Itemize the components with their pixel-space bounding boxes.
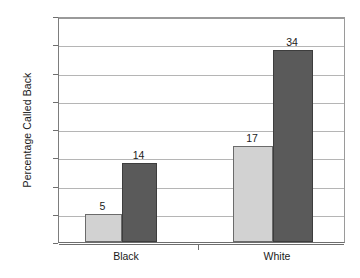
y-tick-mark-0 bbox=[53, 243, 58, 244]
gridline-40 bbox=[59, 18, 344, 19]
black-dark-bar-value-label: 14 bbox=[121, 150, 156, 161]
black-light-bar-value-label: 5 bbox=[84, 201, 121, 212]
bar-chart: Percentage Called Back 4035302520151050 … bbox=[0, 0, 360, 278]
white-light-bar bbox=[233, 146, 273, 242]
gridline-0 bbox=[59, 244, 344, 245]
white-dark-bar-value-label: 34 bbox=[272, 37, 312, 48]
category-label-white: White bbox=[227, 250, 327, 262]
black-dark-bar bbox=[122, 163, 157, 242]
y-axis-title: Percentage Called Back bbox=[18, 17, 36, 243]
category-label-black: Black bbox=[76, 250, 176, 262]
black-light-bar bbox=[85, 214, 122, 242]
white-light-bar-value-label: 17 bbox=[232, 133, 272, 144]
white-dark-bar bbox=[273, 50, 313, 242]
x-axis-center-tick bbox=[198, 244, 199, 250]
